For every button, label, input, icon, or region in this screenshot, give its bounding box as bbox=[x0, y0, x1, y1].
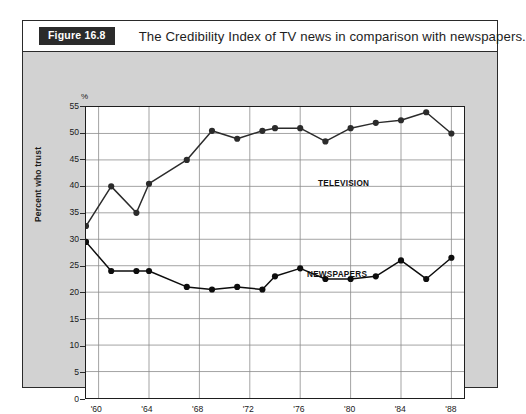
y-tick-label: 0 bbox=[55, 395, 79, 404]
vertical-gridlines bbox=[99, 107, 452, 398]
y-tick-label: 20 bbox=[55, 288, 79, 297]
y-tick-label: 10 bbox=[55, 341, 79, 350]
y-tick-label: 55 bbox=[55, 102, 79, 111]
figure-container: Figure 16.8 The Credibility Index of TV … bbox=[22, 20, 498, 388]
figure-caption-text: The Credibility Index of TV news in comp… bbox=[139, 29, 526, 44]
figure-number-badge: Figure 16.8 bbox=[39, 27, 115, 45]
y-tick-label: 15 bbox=[55, 315, 79, 324]
series-label-television: TELEVISION bbox=[318, 179, 369, 188]
x-tick-label: '68 bbox=[192, 405, 203, 414]
x-tick-label: '88 bbox=[445, 405, 456, 414]
x-tick-label: '60 bbox=[91, 405, 102, 414]
y-tick-label: 50 bbox=[55, 128, 79, 137]
chart-panel: Percent who trust % 55504540353025201510… bbox=[23, 52, 497, 387]
y-tick-mark bbox=[80, 399, 85, 400]
y-tick-label: 25 bbox=[55, 261, 79, 270]
y-tick-label: 35 bbox=[55, 208, 79, 217]
y-tick-label: 40 bbox=[55, 181, 79, 190]
x-tick-label: '64 bbox=[141, 405, 152, 414]
figure-caption-bar: Figure 16.8 The Credibility Index of TV … bbox=[23, 21, 497, 52]
x-tick-label: '76 bbox=[293, 405, 304, 414]
y-tick-label: 45 bbox=[55, 155, 79, 164]
x-tick-label: '72 bbox=[243, 405, 254, 414]
plot-area: TELEVISION NEWSPAPERS bbox=[85, 106, 465, 399]
x-tick-label: '80 bbox=[344, 405, 355, 414]
y-axis-title: Percent who trust bbox=[33, 208, 43, 222]
chart-svg bbox=[86, 107, 464, 398]
x-tick-label: '84 bbox=[395, 405, 406, 414]
y-tick-label: 30 bbox=[55, 235, 79, 244]
percent-symbol: % bbox=[81, 92, 88, 101]
horizontal-gridlines bbox=[86, 133, 464, 371]
y-tick-label: 5 bbox=[55, 368, 79, 377]
series-label-newspapers: NEWSPAPERS bbox=[307, 270, 367, 279]
series-lines bbox=[86, 112, 451, 289]
